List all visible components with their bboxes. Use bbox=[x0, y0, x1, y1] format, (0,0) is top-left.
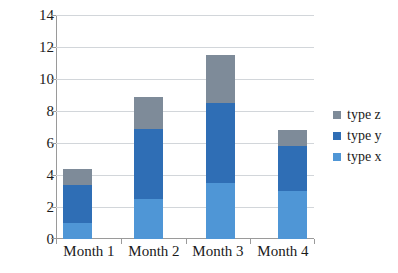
bar-segment-type-z bbox=[206, 55, 235, 103]
chart-legend: type z type y type x bbox=[333, 104, 382, 167]
legend-item-type-y[interactable]: type y bbox=[333, 125, 382, 146]
plot-area bbox=[56, 15, 314, 239]
legend-swatch-icon-type-y bbox=[333, 132, 341, 140]
y-tick-mark-8 bbox=[51, 111, 56, 112]
bar-segment-type-x bbox=[63, 223, 92, 239]
caption-strip bbox=[0, 266, 398, 273]
gridline-6 bbox=[56, 143, 314, 144]
gridline-12 bbox=[56, 47, 314, 48]
y-tick-mark-10 bbox=[51, 79, 56, 80]
bar-segment-type-y bbox=[63, 185, 92, 223]
legend-item-type-z[interactable]: type z bbox=[333, 104, 382, 125]
bar-segment-type-y bbox=[134, 129, 163, 199]
bar-month-2[interactable] bbox=[134, 97, 163, 239]
y-tick-mark-2 bbox=[51, 207, 56, 208]
y-tick-mark-14 bbox=[51, 15, 56, 16]
bar-segment-type-y bbox=[278, 146, 307, 191]
bar-segment-type-x bbox=[134, 199, 163, 239]
legend-label-type-z: type z bbox=[347, 108, 381, 122]
y-tick-label-10: 10 bbox=[14, 72, 54, 87]
y-tick-label-2: 2 bbox=[14, 200, 54, 215]
y-tick-label-4: 4 bbox=[14, 168, 54, 183]
legend-item-type-x[interactable]: type x bbox=[333, 146, 382, 167]
y-tick-mark-12 bbox=[51, 47, 56, 48]
bar-segment-type-y bbox=[206, 103, 235, 183]
legend-swatch-icon-type-z bbox=[333, 111, 341, 119]
bar-month-3[interactable] bbox=[206, 55, 235, 239]
gridline-10 bbox=[56, 79, 314, 80]
gridline-8 bbox=[56, 111, 314, 112]
bar-segment-type-x bbox=[278, 191, 307, 239]
x-tick-label-month-4: Month 4 bbox=[240, 243, 326, 260]
bar-month-4[interactable] bbox=[278, 130, 307, 239]
y-tick-mark-4 bbox=[51, 175, 56, 176]
bar-segment-type-z bbox=[134, 97, 163, 129]
bar-segment-type-x bbox=[206, 183, 235, 239]
bar-month-1[interactable] bbox=[63, 169, 92, 239]
legend-label-type-y: type y bbox=[347, 129, 382, 143]
bar-segment-type-z bbox=[278, 130, 307, 146]
gridline-14 bbox=[56, 15, 314, 16]
stacked-bar-chart: 14 12 10 8 6 4 2 0 bbox=[0, 0, 398, 273]
y-tick-label-12: 12 bbox=[14, 40, 54, 55]
legend-swatch-icon-type-x bbox=[333, 153, 341, 161]
legend-label-type-x: type x bbox=[347, 150, 382, 164]
y-tick-label-14: 14 bbox=[14, 8, 54, 23]
axis-frame bbox=[56, 15, 314, 239]
bar-segment-type-z bbox=[63, 169, 92, 185]
gridline-4 bbox=[56, 175, 314, 176]
y-tick-label-6: 6 bbox=[14, 136, 54, 151]
y-tick-label-8: 8 bbox=[14, 104, 54, 119]
y-tick-mark-6 bbox=[51, 143, 56, 144]
gridline-2 bbox=[56, 207, 314, 208]
